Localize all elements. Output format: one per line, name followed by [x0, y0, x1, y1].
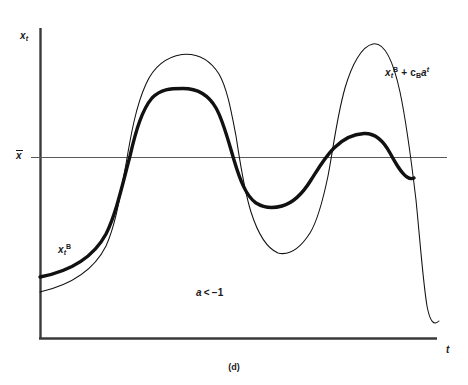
figure-panel-d: xt t x xtB xtB + cBat a<−1 (d) [0, 0, 468, 385]
mean-label-base: x [16, 150, 22, 161]
panel-caption: (d) [0, 362, 468, 372]
plus-sign: + c [398, 67, 416, 78]
y-axis-label-sub: t [26, 35, 28, 42]
condition-variable: a [196, 287, 202, 298]
thin-curve-x-plus-c-a [40, 44, 439, 323]
thick-curve-label: xtB [58, 243, 71, 256]
x-axis-label: t [446, 345, 450, 355]
y-axis-label: xt [20, 31, 28, 42]
thick-curve-x-b [40, 89, 414, 278]
mean-axis-label: x [16, 150, 22, 161]
condition-annotation: a<−1 [196, 288, 224, 298]
condition-operator: < [202, 287, 212, 298]
thin-curve-label: xtB + cBat [385, 66, 429, 79]
condition-value: −1 [212, 287, 224, 298]
plot-area [0, 0, 468, 385]
